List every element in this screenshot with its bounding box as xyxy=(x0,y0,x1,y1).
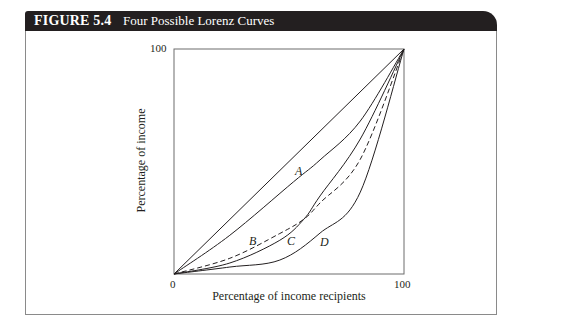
curve-label-a: A xyxy=(295,164,302,179)
curve-label-d: D xyxy=(320,235,329,250)
curve-label-c: C xyxy=(287,234,295,249)
y-axis-label: Percentage of income xyxy=(134,96,149,226)
curve-label-b: B xyxy=(249,234,256,249)
y-tick-100: 100 xyxy=(150,42,167,54)
lorenz-chart xyxy=(0,0,579,332)
x-axis-label: Percentage of income recipients xyxy=(174,289,404,304)
